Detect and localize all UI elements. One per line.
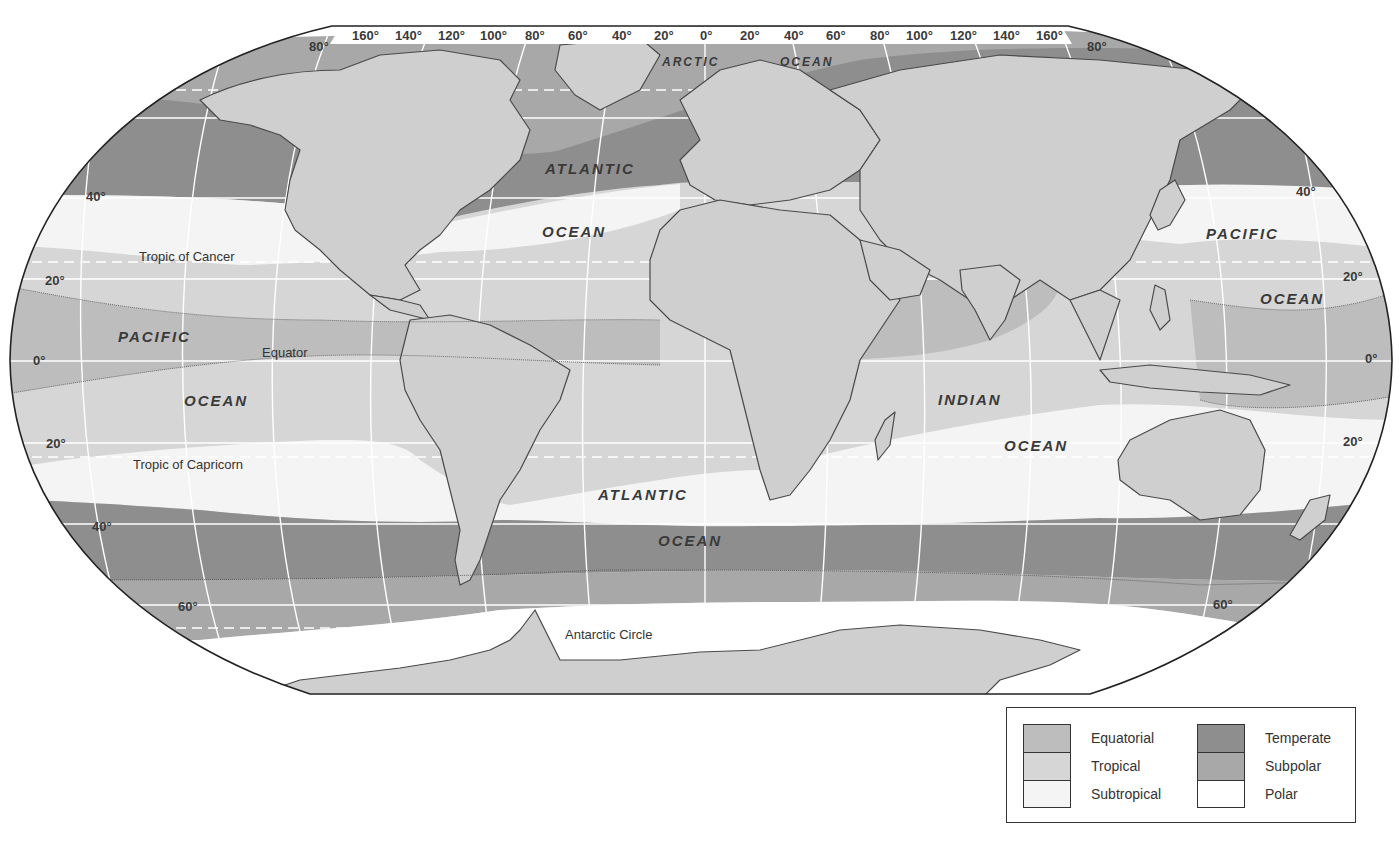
longitude-label: 80° [525,28,545,43]
legend-label: Subtropical [1091,786,1161,802]
latitude-label: 80° [1087,39,1107,54]
latitude-label: 40° [92,519,112,534]
legend-item-subpolar: Subpolar [1197,752,1331,780]
legend-label: Temperate [1265,730,1331,746]
latitude-label: 0° [1365,351,1377,366]
line-label-antarctic-circle: Antarctic Circle [565,627,652,642]
longitude-label: 140° [993,28,1020,43]
ocean-label-south-atlantic-2: OCEAN [658,532,722,549]
swatch-polar [1197,780,1245,808]
line-label-tropic-of-capricorn: Tropic of Capricorn [133,457,243,472]
longitude-label: 20° [740,28,760,43]
ocean-label-indian-ocean-2: OCEAN [1004,437,1068,454]
latitude-label: 40° [86,189,106,204]
legend-label: Tropical [1091,758,1140,774]
ocean-label-arctic-ocean-1: ARCTIC [661,55,719,69]
legend-item-subtropical: Subtropical [1023,780,1161,808]
longitude-label: 80° [870,28,890,43]
legend-label: Equatorial [1091,730,1154,746]
latitude-label: 40° [1296,184,1316,199]
latitude-label: 60° [178,599,198,614]
longitude-label: 60° [568,28,588,43]
latitude-label: 20° [1343,434,1363,449]
latitude-label: 20° [46,436,66,451]
swatch-equatorial [1023,724,1071,752]
latitude-label: 60° [1213,597,1233,612]
latitude-label: 80° [309,39,329,54]
longitude-label: 140° [395,28,422,43]
ocean-label-north-pacific-east-1: PACIFIC [1206,225,1279,242]
latitude-label: 20° [45,273,65,288]
longitude-label: 100° [906,28,933,43]
line-label-tropic-of-cancer: Tropic of Cancer [139,249,235,264]
longitude-label: 60° [826,28,846,43]
longitude-label: 120° [950,28,977,43]
longitude-label: 40° [612,28,632,43]
ocean-label-north-pacific-west-2: OCEAN [184,392,248,409]
longitude-label: 0° [700,28,712,43]
legend-label: Subpolar [1265,758,1321,774]
legend-column-right: Temperate Subpolar Polar [1197,724,1331,808]
longitude-label: 160° [1036,28,1063,43]
longitude-labels: 160°140°120°100°80°60°40°20°0°20°40°60°8… [352,28,1063,43]
swatch-temperate [1197,724,1245,752]
swatch-subtropical [1023,780,1071,808]
legend-item-equatorial: Equatorial [1023,724,1161,752]
legend-item-temperate: Temperate [1197,724,1331,752]
latitude-label: 0° [33,353,45,368]
ocean-label-north-atlantic-2: OCEAN [542,223,606,240]
longitude-label: 20° [654,28,674,43]
longitude-label: 120° [438,28,465,43]
ocean-label-north-pacific-east-2: OCEAN [1260,290,1324,307]
longitude-label: 160° [352,28,379,43]
swatch-subpolar [1197,752,1245,780]
legend: Equatorial Tropical Subtropical Temperat… [1006,707,1356,823]
line-label-equator: Equator [262,345,308,360]
longitude-label: 40° [784,28,804,43]
longitude-label: 100° [480,28,507,43]
legend-label: Polar [1265,786,1298,802]
ocean-label-north-atlantic-1: ATLANTIC [544,160,635,177]
latitude-label: 20° [1343,269,1363,284]
ocean-label-arctic-ocean-2: OCEAN [780,55,833,69]
legend-item-polar: Polar [1197,780,1331,808]
legend-column-left: Equatorial Tropical Subtropical [1023,724,1161,808]
swatch-tropical [1023,752,1071,780]
ocean-label-south-atlantic-1: ATLANTIC [597,486,688,503]
ocean-label-indian-ocean-1: INDIAN [938,391,1002,408]
legend-item-tropical: Tropical [1023,752,1161,780]
ocean-label-north-pacific-west-1: PACIFIC [118,328,191,345]
